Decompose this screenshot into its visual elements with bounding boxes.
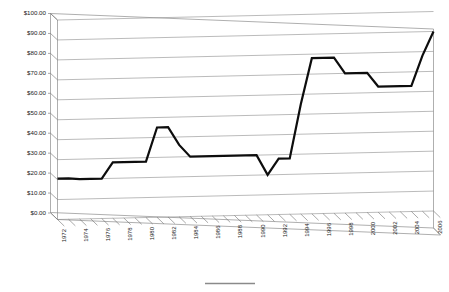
back-wall bbox=[51, 14, 434, 229]
value-tick bbox=[51, 113, 58, 120]
category-axis-label: 1976 bbox=[105, 227, 111, 241]
category-axis-label: 1992 bbox=[282, 223, 288, 237]
category-axis-label: 1988 bbox=[237, 224, 243, 238]
gridline bbox=[58, 191, 434, 200]
category-tick bbox=[234, 216, 241, 223]
value-tick bbox=[51, 14, 58, 21]
category-axis-label: 1982 bbox=[171, 226, 177, 240]
category-tick bbox=[168, 217, 175, 224]
value-tick bbox=[51, 153, 58, 160]
value-tick bbox=[51, 213, 58, 220]
category-tick bbox=[356, 213, 363, 220]
value-axis-ticks bbox=[48, 14, 58, 220]
value-axis-label: $50.00 bbox=[27, 109, 46, 116]
gridline bbox=[58, 91, 434, 100]
gridlines bbox=[58, 12, 434, 220]
category-axis-label: 1998 bbox=[348, 222, 354, 236]
value-axis-labels: $0.00$10.00$20.00$30.00$40.00$50.00$60.0… bbox=[24, 9, 47, 216]
category-axis-label: 2006 bbox=[437, 220, 443, 234]
value-tick bbox=[51, 133, 58, 140]
category-axis-label: 2004 bbox=[414, 220, 420, 234]
gridline bbox=[58, 71, 434, 80]
value-tick bbox=[51, 173, 58, 180]
category-axis-label: 1990 bbox=[260, 224, 266, 238]
category-tick bbox=[223, 216, 230, 223]
category-tick bbox=[323, 214, 330, 221]
category-tick bbox=[157, 217, 164, 224]
series-group bbox=[58, 31, 434, 179]
value-axis-label: $70.00 bbox=[27, 69, 46, 76]
value-axis-label: $80.00 bbox=[27, 49, 46, 56]
category-tick bbox=[135, 218, 142, 225]
category-axis-label: 1980 bbox=[149, 226, 155, 240]
value-tick bbox=[51, 33, 58, 40]
chart-container: $0.00$10.00$20.00$30.00$40.00$50.00$60.0… bbox=[0, 0, 449, 292]
category-axis-label: 1986 bbox=[215, 225, 221, 239]
category-tick bbox=[290, 214, 297, 221]
category-tick bbox=[389, 212, 396, 219]
value-axis-label: $30.00 bbox=[27, 149, 46, 156]
category-tick bbox=[190, 217, 197, 224]
category-tick bbox=[124, 218, 131, 225]
gridline bbox=[58, 131, 434, 140]
category-tick bbox=[345, 213, 352, 220]
series-value-line bbox=[58, 31, 434, 179]
value-tick bbox=[51, 53, 58, 60]
category-tick bbox=[334, 213, 341, 220]
value-axis-label: $0.00 bbox=[31, 209, 47, 216]
category-tick bbox=[312, 214, 319, 221]
value-tick bbox=[51, 193, 58, 200]
category-tick bbox=[268, 215, 275, 222]
value-axis-label: $10.00 bbox=[27, 189, 46, 196]
gridline bbox=[58, 51, 434, 60]
value-tick bbox=[51, 73, 58, 80]
category-tick bbox=[367, 213, 374, 220]
line-chart: $0.00$10.00$20.00$30.00$40.00$50.00$60.0… bbox=[0, 0, 449, 292]
value-axis-label: $40.00 bbox=[27, 129, 46, 136]
category-tick bbox=[411, 212, 418, 219]
category-axis-label: 1984 bbox=[193, 225, 199, 239]
category-tick bbox=[434, 211, 441, 218]
category-axis-label: 1974 bbox=[83, 228, 89, 242]
value-axis-label: $20.00 bbox=[27, 169, 46, 176]
category-tick bbox=[400, 212, 407, 219]
category-tick bbox=[279, 215, 286, 222]
category-axis-label: 2000 bbox=[370, 221, 376, 235]
value-axis-label: $60.00 bbox=[27, 89, 46, 96]
category-axis-label: 1996 bbox=[326, 222, 332, 236]
category-axis-label: 1978 bbox=[127, 227, 133, 241]
category-axis-ticks bbox=[58, 211, 441, 226]
category-axis-label: 1994 bbox=[304, 223, 310, 237]
category-axis-label: 2002 bbox=[392, 221, 398, 235]
floor-edge bbox=[58, 220, 441, 236]
category-axis-label: 1972 bbox=[61, 228, 67, 242]
value-tick bbox=[51, 93, 58, 100]
category-tick bbox=[58, 220, 65, 227]
gridline bbox=[58, 111, 434, 120]
category-tick bbox=[201, 216, 208, 223]
category-tick bbox=[91, 219, 98, 226]
category-tick bbox=[80, 219, 87, 226]
gridline bbox=[58, 31, 434, 40]
category-tick bbox=[422, 211, 429, 218]
value-axis-label: $100.00 bbox=[24, 9, 47, 16]
gridline bbox=[58, 171, 434, 180]
value-axis-label: $90.00 bbox=[27, 29, 46, 36]
plot-3d-frame bbox=[51, 14, 441, 236]
category-tick bbox=[378, 212, 385, 219]
category-tick bbox=[301, 214, 308, 221]
